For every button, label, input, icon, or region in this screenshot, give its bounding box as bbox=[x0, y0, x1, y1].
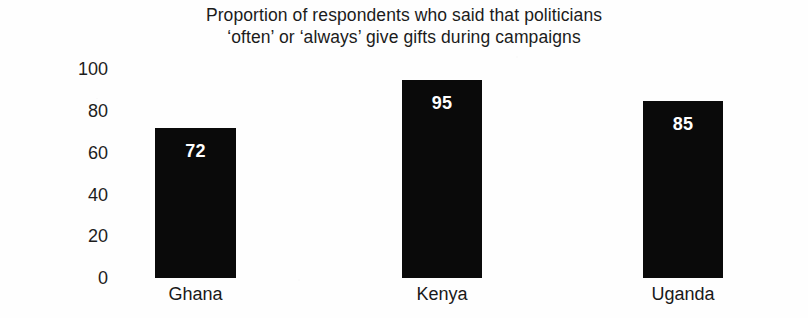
y-tick-label-20: 20 bbox=[12, 227, 108, 245]
bar-chart: Proportion of respondents who said that … bbox=[0, 0, 808, 318]
bar-value-ghana: 72 bbox=[155, 142, 236, 160]
bar-group-uganda: 85 Uganda bbox=[643, 0, 723, 318]
y-tick-label-0: 0 bbox=[12, 269, 108, 287]
category-label-ghana: Ghana bbox=[168, 284, 222, 304]
y-tick-label-60: 60 bbox=[12, 144, 108, 162]
bar-uganda: 85 bbox=[643, 101, 723, 278]
bar-value-uganda: 85 bbox=[643, 115, 723, 133]
y-tick-label-40: 40 bbox=[12, 186, 108, 204]
category-label-kenya: Kenya bbox=[416, 284, 467, 304]
y-axis: 100 80 60 40 20 0 bbox=[0, 0, 108, 318]
bar-group-kenya: 95 Kenya bbox=[402, 0, 482, 318]
y-tick-label-80: 80 bbox=[12, 102, 108, 120]
category-label-uganda: Uganda bbox=[651, 284, 714, 304]
bar-value-kenya: 95 bbox=[402, 94, 482, 112]
bar-ghana: 72 bbox=[155, 128, 236, 278]
y-tick-label-100: 100 bbox=[12, 60, 108, 78]
plot-area: 100 80 60 40 20 0 72 Ghana 95 Kenya 85 U… bbox=[0, 0, 808, 318]
bar-group-ghana: 72 Ghana bbox=[155, 0, 236, 318]
bar-kenya: 95 bbox=[402, 80, 482, 278]
